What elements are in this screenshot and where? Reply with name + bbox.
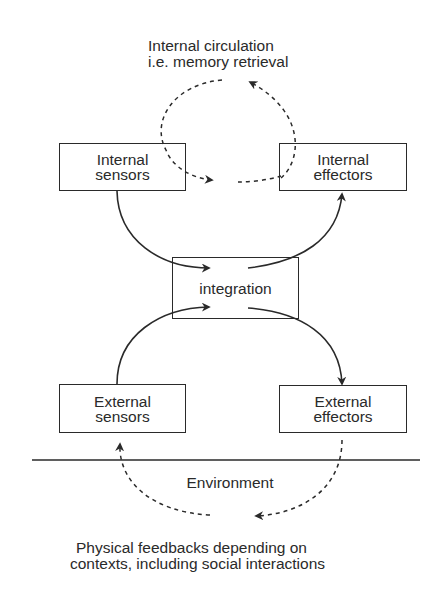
integration-label: integration [199, 281, 271, 296]
external-effectors-label: External effectors [313, 394, 372, 424]
external-sensors-label: External sensors [94, 394, 151, 424]
feedback-caption: Physical feedbacks depending on contexts… [70, 540, 390, 572]
external-effectors-box: External effectors [279, 385, 407, 433]
internal-circulation-line1: Internal circulation [148, 38, 328, 54]
integration-box: integration [172, 257, 299, 319]
internal-sensors-label: Internal sensors [95, 152, 149, 182]
environment-label: Environment [175, 475, 285, 491]
internal-sensors-box: Internal sensors [59, 143, 186, 191]
internal-effectors-label: Internal effectors [313, 152, 372, 182]
feedback-caption-line1: Physical feedbacks depending on [70, 540, 390, 556]
internal-circulation-title: Internal circulation i.e. memory retriev… [148, 38, 328, 70]
external-sensors-box: External sensors [59, 384, 186, 433]
internal-effectors-box: Internal effectors [279, 143, 407, 191]
feedback-caption-line2: contexts, including social interactions [70, 556, 390, 572]
arc-integration-to-external-effectors [248, 308, 342, 384]
internal-circulation-line2: i.e. memory retrieval [148, 54, 328, 70]
